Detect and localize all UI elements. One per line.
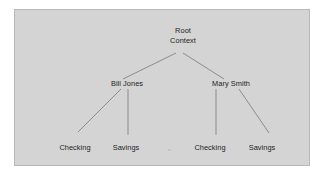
leaf-mary-checking: Checking xyxy=(185,143,235,152)
node-bill-jones: Bill Jones xyxy=(94,79,160,88)
diagram-panel: RootContext Bill Jones Mary Smith Checki… xyxy=(14,9,310,166)
node-root-line1: Root xyxy=(175,26,191,35)
node-root-context: RootContext xyxy=(155,26,211,45)
edge-bill-to-checking xyxy=(78,89,121,132)
leaf-mary-savings: Savings xyxy=(239,143,285,152)
leaf-bill-savings: Savings xyxy=(103,143,149,152)
edge-mary-to-savings xyxy=(239,89,269,133)
screenshot-root: RootContext Bill Jones Mary Smith Checki… xyxy=(0,0,328,182)
leaf-bill-checking: Checking xyxy=(50,143,100,152)
edge-root-to-mary xyxy=(183,53,224,79)
scan-speck-artifact xyxy=(168,149,171,151)
node-root-line2: Context xyxy=(170,36,196,45)
node-mary-smith: Mary Smith xyxy=(197,79,265,88)
edge-root-to-bill xyxy=(123,53,176,79)
